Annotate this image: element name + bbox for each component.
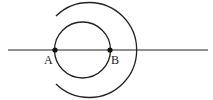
point-b [107, 47, 112, 52]
point-b-label: B [111, 53, 119, 67]
diagram-canvas: A B [0, 0, 213, 100]
point-a [52, 47, 57, 52]
point-a-label: A [44, 53, 53, 67]
geometry-diagram: A B [0, 0, 213, 100]
